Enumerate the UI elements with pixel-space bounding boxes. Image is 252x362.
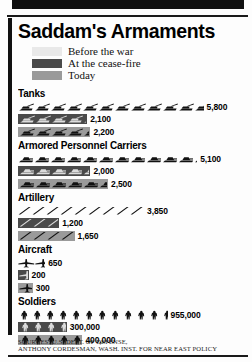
value-label: 200 (32, 270, 46, 280)
pictograph-partial-icon (19, 283, 32, 293)
value-label: 2,200 (93, 127, 114, 137)
legend-swatch-before-the-war (32, 47, 62, 56)
pictograph-bar (18, 231, 75, 241)
pictograph-partial-icon (99, 179, 107, 189)
top-black-bar (12, 0, 244, 9)
category-label: Soldiers (18, 295, 235, 308)
pictograph-row: 5,100 (18, 153, 246, 164)
value-label: 5,800 (207, 102, 228, 112)
category-label: Armored Personnel Carriers (18, 139, 235, 152)
pictograph-partial-icon (83, 166, 89, 176)
pictograph-row: 300 (18, 282, 246, 293)
category-block: Tanks5,8002,1002,200 (18, 87, 246, 137)
pictograph-bar (18, 310, 168, 320)
pictograph-bar (18, 154, 197, 164)
value-label: 2,000 (93, 166, 114, 176)
left-vertical-rule (8, 18, 12, 335)
pictograph-partial-icon (83, 127, 89, 137)
value-label: 955,000 (171, 310, 201, 320)
pictograph-row: 3,850 (18, 205, 246, 216)
legend-item: Before the war (32, 46, 246, 57)
pictograph-partial-icon (83, 114, 86, 124)
top-divider-rule (7, 15, 248, 17)
pictograph-partial-icon (58, 322, 66, 332)
pictograph-row: 2,200 (18, 126, 246, 137)
category-label: Aircraft (18, 243, 235, 256)
value-label: 300 (36, 283, 50, 293)
category-block: Armored Personnel Carriers5,1002,0002,50… (18, 139, 246, 189)
pictograph-partial-icon (194, 102, 204, 112)
value-label: 1,200 (62, 218, 83, 228)
pictograph-bar (18, 127, 90, 137)
pictograph-bar (18, 218, 59, 228)
page-title: Saddam's Armaments (18, 20, 230, 42)
pictograph-bar (18, 179, 108, 189)
bottom-divider-rule (8, 355, 248, 357)
pictograph-row: 1,650 (18, 230, 246, 241)
value-label: 2,100 (90, 114, 111, 124)
pictograph-row: 1,200 (18, 218, 246, 229)
pictograph-bar (18, 270, 29, 280)
pictograph-row: 2,500 (18, 178, 246, 189)
legend-item: Today (32, 70, 246, 81)
pictograph-bar (18, 166, 90, 176)
legend-swatch-at-the-cease-fire (32, 59, 62, 68)
pictograph-row: 2,100 (18, 114, 246, 125)
value-label: 1,650 (78, 231, 99, 241)
pictograph-bar (18, 283, 33, 293)
category-label: Artillery (18, 191, 235, 204)
pictograph-row: 955,000 (18, 309, 246, 320)
legend-label: Today (68, 70, 95, 81)
pictograph-partial-icon (161, 310, 168, 320)
pictograph-row: 2,000 (18, 166, 246, 177)
pictograph-row: 650 (18, 257, 246, 268)
pictograph-partial-icon (61, 231, 74, 241)
category-label: Tanks (18, 87, 235, 100)
legend-item: At the cease-fire (32, 58, 246, 69)
value-label: 5,100 (200, 154, 221, 164)
infographic-root: Saddam's Armaments Before the war At the… (0, 0, 252, 362)
legend: Before the war At the cease-fire Today (32, 46, 246, 81)
infographic-content: Saddam's Armaments Before the war At the… (18, 18, 246, 347)
pictograph-partial-icon (194, 154, 197, 164)
pictograph-bar (18, 258, 45, 268)
legend-label: At the cease-fire (68, 58, 141, 69)
legend-swatch-today (32, 71, 62, 80)
pictograph-bar (18, 206, 144, 216)
chart-groups: Tanks5,8002,1002,200Armored Personnel Ca… (18, 87, 246, 345)
value-label: 650 (48, 258, 62, 268)
sources-line-1: SOURCES: U.S. DEPT. OF DEFENSE, (18, 338, 244, 345)
sources-line-2: ANTHONY CORDESMAN, WASH. INST. FOR NEAR … (18, 345, 244, 352)
pictograph-bar (18, 322, 67, 332)
value-label: 2,500 (111, 179, 132, 189)
pictograph-row: 5,800 (18, 101, 246, 112)
pictograph-partial-icon (19, 270, 28, 280)
pictograph-row: 200 (18, 270, 246, 281)
category-block: Artillery3,8501,2001,650 (18, 191, 246, 241)
pictograph-partial-icon (47, 218, 58, 228)
pictograph-bar (18, 102, 204, 112)
pictograph-partial-icon (35, 258, 45, 268)
value-label: 300,000 (70, 322, 100, 332)
legend-label: Before the war (68, 46, 133, 57)
pictograph-row: 300,000 (18, 322, 246, 333)
category-block: Aircraft650200300 (18, 243, 246, 293)
sources-note: SOURCES: U.S. DEPT. OF DEFENSE, ANTHONY … (18, 338, 244, 353)
value-label: 3,850 (147, 206, 168, 216)
pictograph-bar (18, 114, 87, 124)
